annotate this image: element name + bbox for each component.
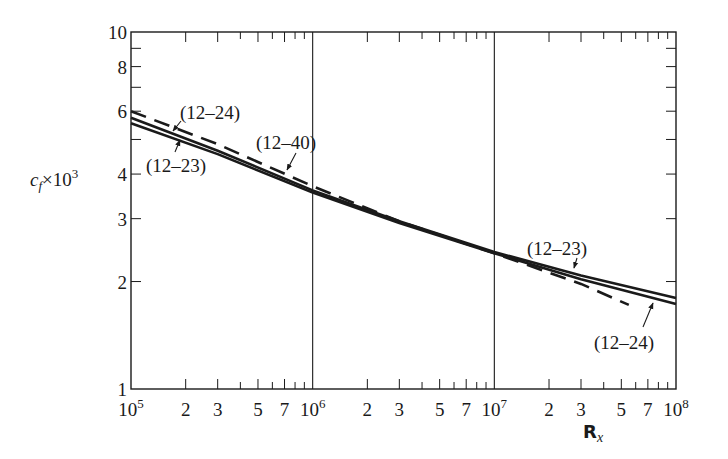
x-tick-label: 107 [482,396,508,420]
y-axis-title: cf×103 [30,166,78,193]
x-tick-label: 7 [643,399,653,420]
curve-label: (12–24) [180,102,240,124]
x-tick-label: 3 [576,399,586,420]
x-tick-label: 108 [663,396,689,420]
x-tick-label: 106 [300,396,326,420]
y-tick-label: 4 [118,164,128,185]
curve-12-23 [131,118,676,298]
x-tick-label: 3 [213,399,223,420]
curve-label: (12–23) [146,155,206,177]
y-tick-label: 8 [118,57,128,78]
x-tick-label: 2 [363,399,373,420]
y-tick-label: 10 [108,22,127,43]
curve-annotations: (12–24)(12–23)(12–40)(12–23)(12–24) [146,102,654,354]
decade-gridlines [313,32,495,389]
y-tick-label: 3 [118,209,128,230]
x-tick-label: 5 [617,399,627,420]
y-axis-ticks: 12346810 [108,22,676,400]
x-tick-label: 5 [435,399,445,420]
x-tick-label: 2 [181,399,191,420]
x-tick-label: 2 [544,399,554,420]
x-tick-label: 5 [253,399,263,420]
curve-12-24 [131,123,676,304]
y-tick-label: 1 [118,379,128,400]
annotation-arrow [574,258,577,268]
curve-12-40 [131,111,629,305]
x-axis-title: Rx [583,421,604,445]
y-tick-label: 6 [118,101,128,122]
x-tick-label: 3 [395,399,405,420]
annotation-arrow [175,140,180,152]
y-tick-label: 2 [118,272,128,293]
x-axis-ticks: 105235710623571072357108 [118,32,689,420]
skin-friction-chart: 105235710623571072357108 12346810 (12–24… [0,0,728,459]
annotation-arrow [287,153,296,170]
x-tick-label: 7 [461,399,471,420]
x-tick-label: 7 [280,399,290,420]
annotation-arrow [643,303,653,327]
curve-label: (12–24) [594,332,654,354]
curve-label: (12–40) [256,132,316,154]
curve-label: (12–23) [527,238,587,260]
curves [131,111,676,305]
